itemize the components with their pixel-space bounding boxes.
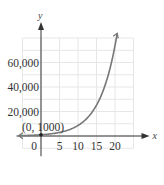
x-tick-label: 0 <box>31 140 37 152</box>
x-tick-label: 5 <box>57 140 63 152</box>
tick-labels: 0510152020,00040,00060,000(0, 1000) <box>7 57 121 153</box>
x-tick-label: 10 <box>72 140 84 152</box>
y-tick-label: 20,000 <box>7 106 39 119</box>
x-tick-label: 15 <box>91 140 103 152</box>
exponential-chart: xy 0510152020,00040,00060,000(0, 1000) <box>0 0 164 185</box>
y-axis-label: y <box>37 10 43 21</box>
y-axis-arrow-icon <box>38 22 44 30</box>
y-tick-label: 40,000 <box>7 81 39 94</box>
x-axis-label: x <box>152 130 158 141</box>
point-marker <box>39 133 43 137</box>
y-tick-label: 60,000 <box>7 57 39 70</box>
point-annotation: (0, 1000) <box>22 121 64 134</box>
x-axis-arrow-icon <box>142 133 150 139</box>
x-tick-label: 20 <box>109 140 121 152</box>
